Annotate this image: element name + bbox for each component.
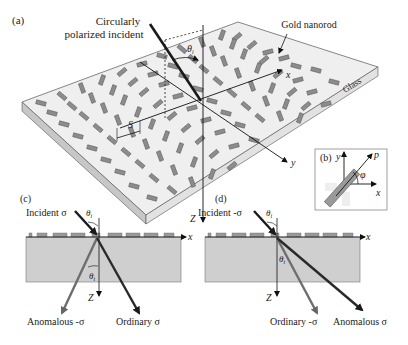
anomalous-label-d: Anomalous σ bbox=[333, 316, 388, 327]
panel-b-label: (b) bbox=[320, 152, 332, 164]
panel-b: (b) y x p φ bbox=[315, 149, 387, 210]
x-axis-c-label: x bbox=[187, 231, 193, 242]
panel-a-label: (a) bbox=[12, 14, 25, 27]
anomalous-label-c: Anomalous -σ bbox=[27, 316, 85, 327]
incident-label-line2: polarized incident bbox=[64, 28, 143, 40]
theta-i-d: θi bbox=[266, 208, 272, 219]
phi-label: φ bbox=[360, 169, 366, 180]
ordinary-label-c: Ordinary σ bbox=[116, 316, 161, 327]
y-axis-a-label: y bbox=[290, 157, 296, 168]
incident-d-label: Incident -σ bbox=[198, 207, 243, 218]
panel-c-label: (c) bbox=[20, 193, 31, 205]
incident-label-line1: Circularly bbox=[96, 15, 141, 27]
panel-d-label: (d) bbox=[215, 193, 227, 205]
x-axis-a-label: x bbox=[285, 69, 291, 80]
period-label: S bbox=[128, 119, 133, 130]
gold-nanorod-label: Gold nanorod bbox=[281, 19, 336, 30]
nanorod-row-d bbox=[208, 233, 353, 237]
theta-i-c: θi bbox=[86, 208, 92, 219]
x-axis-d-label: x bbox=[365, 231, 371, 242]
p-axis-b-label: p bbox=[373, 149, 379, 160]
panel-c: (c) Incident σ x Z θi θt Anomalous -σ O bbox=[20, 193, 193, 327]
z-axis-a-label: Z bbox=[190, 213, 196, 224]
z-axis-c-label: Z bbox=[88, 292, 94, 303]
nanorod-row-c bbox=[29, 233, 174, 237]
z-axis-d-label: Z bbox=[266, 292, 272, 303]
glass-slab-c bbox=[26, 237, 181, 282]
metasurface-figure: (a) Circularly polarized incident Glass bbox=[0, 0, 408, 345]
panel-b-bg-2 bbox=[342, 192, 350, 206]
incident-c-label: Incident σ bbox=[26, 207, 67, 218]
x-axis-b-label: x bbox=[375, 187, 381, 198]
ordinary-label-d: Ordinary -σ bbox=[270, 316, 318, 327]
y-axis-b-label: y bbox=[335, 151, 341, 162]
panel-d: (d) Incident -σ x Z θi θt Ordinary -σ An… bbox=[198, 193, 388, 327]
